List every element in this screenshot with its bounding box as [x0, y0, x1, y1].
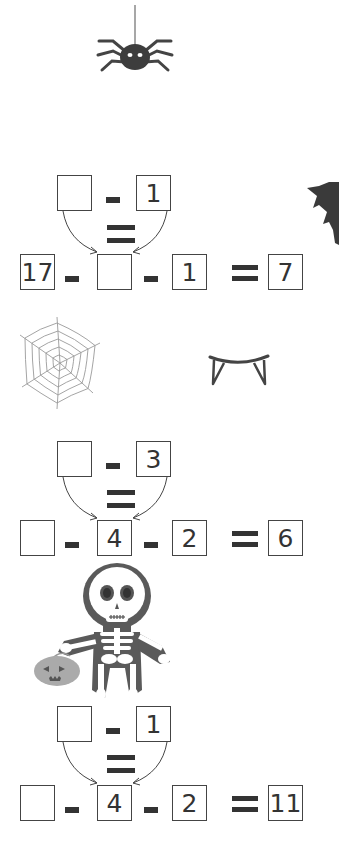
minus-sign	[65, 807, 79, 813]
skeleton-icon	[30, 560, 175, 710]
answer-box[interactable]	[57, 175, 92, 211]
answer-box[interactable]	[20, 520, 55, 556]
number-box: 4	[97, 785, 132, 821]
vampire-fangs-icon	[207, 350, 271, 388]
spider-web-icon	[12, 315, 108, 411]
answer-box[interactable]	[20, 785, 55, 821]
number-box: 4	[97, 520, 132, 556]
number-box: 3	[136, 441, 171, 477]
minus-sign	[144, 276, 158, 282]
answer-box[interactable]	[57, 706, 92, 742]
minus-sign	[65, 276, 79, 282]
spider-icon	[95, 0, 180, 75]
number-box: 1	[136, 175, 171, 211]
minus-sign	[106, 197, 120, 203]
minus-sign	[144, 807, 158, 813]
number-box: 1	[172, 254, 207, 290]
result-box: 11	[268, 785, 303, 821]
number-box: 2	[172, 785, 207, 821]
jack-o-lantern-bucket-icon	[34, 653, 80, 686]
arrow-left-curve	[60, 211, 100, 256]
result-box: 7	[268, 254, 303, 290]
minus-sign	[144, 542, 158, 548]
bat-wing-icon	[305, 180, 339, 245]
minus-sign	[106, 728, 120, 734]
arrow-right-curve	[130, 742, 170, 787]
number-box: 2	[172, 520, 207, 556]
number-box: 17	[20, 254, 55, 290]
answer-box[interactable]	[57, 441, 92, 477]
minus-sign	[106, 463, 120, 469]
arrow-right-curve	[130, 211, 170, 256]
result-box: 6	[268, 520, 303, 556]
number-box: 1	[136, 706, 171, 742]
answer-box[interactable]	[97, 254, 132, 290]
arrow-left-curve	[60, 477, 100, 522]
arrow-left-curve	[60, 742, 100, 787]
arrow-right-curve	[130, 477, 170, 522]
minus-sign	[65, 542, 79, 548]
